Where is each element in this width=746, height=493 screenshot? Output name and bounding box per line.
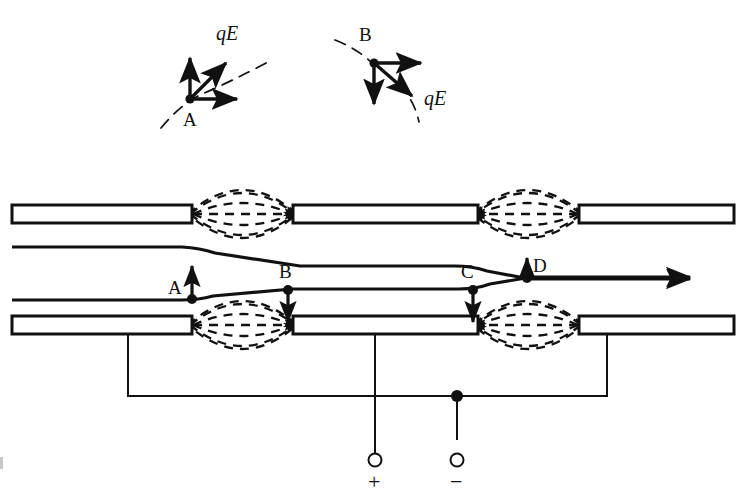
tube-lower-3 bbox=[579, 316, 734, 334]
positive-terminal-label: + bbox=[368, 469, 380, 493]
negative-terminal-node[interactable] bbox=[451, 454, 464, 467]
marker-C-label: C bbox=[461, 261, 474, 282]
inset-B-point-label: B bbox=[359, 24, 372, 45]
positive-terminal-node[interactable] bbox=[369, 454, 382, 467]
tube-upper-1 bbox=[12, 205, 192, 223]
tube-upper-3 bbox=[579, 205, 734, 223]
negative-terminal-label: − bbox=[450, 469, 462, 493]
tube-lower-2 bbox=[293, 316, 478, 334]
figure-canvas: qE A B qE bbox=[0, 0, 746, 493]
marker-A-label: A bbox=[168, 277, 182, 298]
drift-tube-accelerator-figure: qE A B qE bbox=[0, 0, 746, 493]
tube-upper-2 bbox=[293, 205, 478, 223]
junction-dot bbox=[451, 390, 463, 402]
tube-lower-1 bbox=[12, 316, 192, 334]
upper-drift-tubes bbox=[12, 205, 734, 223]
marker-D-label: D bbox=[533, 255, 547, 276]
inset-B-force-label: qE bbox=[424, 87, 446, 110]
page-edge-mark bbox=[0, 457, 3, 469]
lower-drift-tubes bbox=[12, 316, 734, 334]
inset-A-point-label: A bbox=[183, 109, 197, 130]
marker-B-label: B bbox=[279, 261, 292, 282]
inset-A-force-label: qE bbox=[216, 22, 238, 45]
